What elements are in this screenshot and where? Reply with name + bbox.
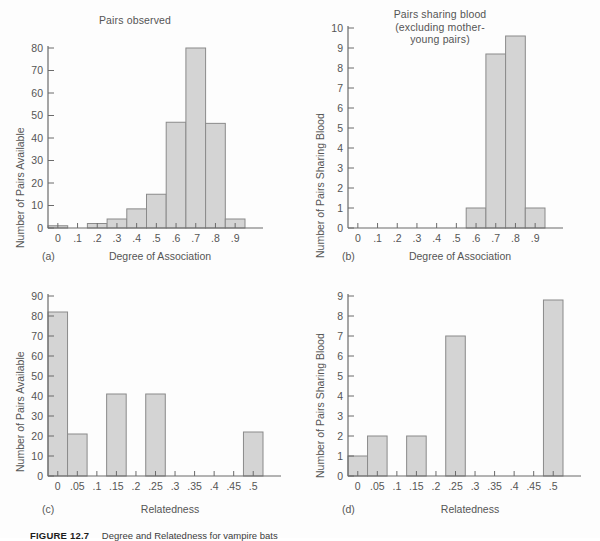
x-tick-label: .2 — [132, 480, 141, 492]
y-tick-label: 50 — [31, 109, 43, 121]
x-tick-label: .2 — [93, 232, 102, 244]
panel-a-plot: 0.1.2.3.4.5.6.7.8.901020304050607080 — [0, 0, 300, 270]
y-tick-label: 6 — [337, 350, 343, 362]
y-tick-label: 7 — [337, 82, 343, 94]
y-tick-label: 0 — [37, 222, 43, 234]
panel-c-xlabel: Relatedness — [90, 503, 250, 515]
x-tick-label: .6 — [172, 232, 181, 244]
panel-d-xlabel: Relatedness — [390, 503, 550, 515]
x-tick-label: .45 — [226, 480, 241, 492]
x-tick-label: .7 — [491, 232, 500, 244]
y-tick-label: 40 — [31, 390, 43, 402]
x-tick-label: .9 — [231, 232, 240, 244]
x-tick-label: .5 — [152, 232, 161, 244]
x-tick-label: .15 — [409, 480, 424, 492]
bar-c-0 — [48, 312, 68, 476]
x-tick-label: .5 — [549, 480, 558, 492]
panel-b-plot: 0.1.2.3.4.5.6.7.8.9012345678910 — [300, 0, 600, 270]
y-tick-label: 50 — [31, 370, 43, 382]
bar-d-.05 — [368, 436, 388, 476]
y-tick-label: 10 — [31, 199, 43, 211]
bar-d-.15 — [407, 436, 427, 476]
bar-a-.7 — [186, 48, 206, 228]
figure-caption: FIGURE 12.7 Degree and Relatedness for v… — [30, 530, 278, 540]
panel-a-xlabel: Degree of Association — [80, 250, 240, 262]
x-tick-label: .3 — [413, 232, 422, 244]
x-tick-label: .5 — [452, 232, 461, 244]
bar-c-.05 — [68, 434, 88, 476]
x-tick-label: .4 — [210, 480, 219, 492]
x-tick-label: .3 — [113, 232, 122, 244]
x-tick-label: .4 — [432, 232, 441, 244]
panel-b-tag: (b) — [342, 250, 355, 262]
x-tick-label: .35 — [187, 480, 202, 492]
bar-b-.7 — [486, 54, 506, 228]
y-tick-label: 8 — [337, 62, 343, 74]
bar-d-.25 — [446, 336, 466, 476]
x-tick-label: 0 — [355, 480, 361, 492]
y-tick-label: 20 — [31, 177, 43, 189]
panel-a: Pairs observed 0.1.2.3.4.5.6.7.8.9010203… — [0, 0, 300, 270]
x-tick-label: .1 — [73, 232, 82, 244]
y-tick-label: 6 — [337, 102, 343, 114]
panel-d-plot: 0.05.1.15.2.25.3.35.4.45.50123456789 — [300, 270, 600, 520]
y-tick-label: 5 — [337, 370, 343, 382]
y-tick-label: 0 — [337, 470, 343, 482]
panel-d-tag: (d) — [342, 503, 355, 515]
y-tick-label: 4 — [337, 142, 343, 154]
y-tick-label: 10 — [31, 450, 43, 462]
figure-caption-label: FIGURE 12.7 — [30, 530, 89, 541]
x-tick-label: .45 — [526, 480, 541, 492]
x-tick-label: .5 — [249, 480, 258, 492]
y-tick-label: 1 — [337, 202, 343, 214]
x-tick-label: .05 — [370, 480, 385, 492]
panel-b-xlabel: Degree of Association — [380, 250, 540, 262]
x-tick-label: .8 — [511, 232, 520, 244]
y-tick-label: 30 — [31, 154, 43, 166]
panel-a-tag: (a) — [42, 250, 55, 262]
x-tick-label: .1 — [92, 480, 101, 492]
x-tick-label: .1 — [373, 232, 382, 244]
x-tick-label: .15 — [109, 480, 124, 492]
x-tick-label: 0 — [55, 480, 61, 492]
y-tick-label: 70 — [31, 330, 43, 342]
y-tick-label: 80 — [31, 310, 43, 322]
y-tick-label: 7 — [337, 330, 343, 342]
ylabel-top-left: Number of Pairs Available — [14, 127, 26, 248]
y-tick-label: 3 — [337, 162, 343, 174]
x-tick-label: .8 — [211, 232, 220, 244]
bar-a-.5 — [147, 194, 167, 228]
x-tick-label: 0 — [355, 232, 361, 244]
x-tick-label: .25 — [448, 480, 463, 492]
x-tick-label: .9 — [531, 232, 540, 244]
x-tick-label: .3 — [471, 480, 480, 492]
bar-c-.25 — [146, 394, 166, 476]
x-tick-label: .6 — [472, 232, 481, 244]
figure-caption-text: Degree and Relatedness for vampire bats — [102, 530, 278, 541]
bar-c-.5 — [243, 432, 263, 476]
panel-c-tag: (c) — [42, 503, 54, 515]
y-tick-label: 2 — [337, 182, 343, 194]
y-tick-label: 0 — [337, 222, 343, 234]
y-tick-label: 70 — [31, 64, 43, 76]
y-tick-label: 4 — [337, 390, 343, 402]
bar-a-.6 — [166, 122, 186, 228]
y-tick-label: 9 — [337, 290, 343, 302]
panel-b: Pairs sharing blood (excluding mother- y… — [300, 0, 600, 270]
x-tick-label: .2 — [393, 232, 402, 244]
y-tick-label: 3 — [337, 410, 343, 422]
panel-c: 0.05.1.15.2.25.3.35.4.45.501020304050607… — [0, 270, 300, 520]
y-tick-label: 90 — [31, 290, 43, 302]
y-tick-label: 60 — [31, 87, 43, 99]
y-tick-label: 8 — [337, 310, 343, 322]
ylabel-bottom-right: Number of Pairs Sharing Blood — [314, 333, 326, 478]
y-tick-label: 20 — [31, 430, 43, 442]
y-tick-label: 30 — [31, 410, 43, 422]
ylabel-bottom-left: Number of Pairs Available — [14, 351, 26, 472]
panel-c-plot: 0.05.1.15.2.25.3.35.4.45.501020304050607… — [0, 270, 300, 520]
x-tick-label: .1 — [392, 480, 401, 492]
x-tick-label: .35 — [487, 480, 502, 492]
x-tick-label: .4 — [510, 480, 519, 492]
panel-d: 0.05.1.15.2.25.3.35.4.45.50123456789 (d)… — [300, 270, 600, 520]
